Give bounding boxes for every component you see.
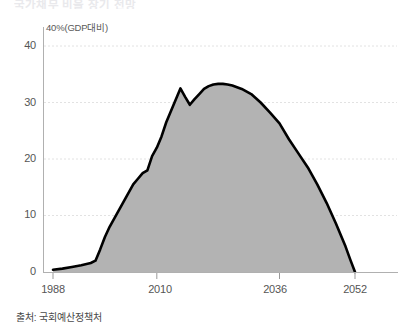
series-group [53,84,355,272]
x-tick-label-2036: 2036 [253,283,297,295]
chart-figure: 국가채무 비율 장기 전망 40%(GDP대비) 0 10 20 30 40 1… [0,0,401,332]
series-area-fill [53,84,355,272]
y-tick-label-20: 20 [10,152,36,164]
y-tick-label-40: 40 [10,39,36,51]
x-tick-label-1988: 1988 [31,283,75,295]
y-tick-label-0: 0 [10,265,36,277]
y-tick-label-30: 30 [10,96,36,108]
y-tick-label-10: 10 [10,208,36,220]
x-tick-label-2052: 2052 [333,283,377,295]
source-note: 출처: 국회예산정책처 [16,309,101,324]
x-tick-label-2010: 2010 [138,283,182,295]
x-tick-marks-group [53,273,355,279]
